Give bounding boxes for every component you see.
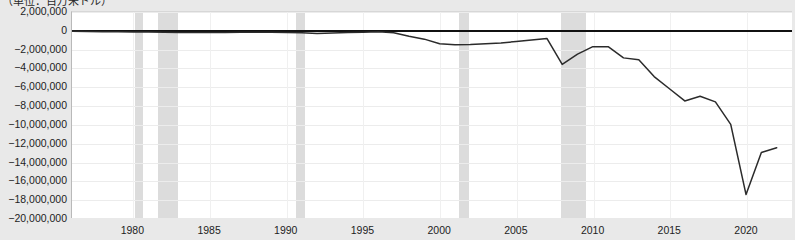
x-axis-tick-label: 2010 <box>581 224 604 236</box>
y-axis-tick-label: 0 <box>61 24 67 35</box>
x-axis-tick-label: 1985 <box>197 224 220 236</box>
x-axis-tick-label: 2020 <box>734 224 757 236</box>
y-axis-tick-label: −10,000,000 <box>8 118 67 129</box>
plot-area <box>71 11 792 218</box>
series-line-layer <box>72 12 792 218</box>
y-axis: 2,000,0000−2,000,000−4,000,000−6,000,000… <box>0 0 71 240</box>
x-axis-tick-label: 2005 <box>504 224 527 236</box>
series-line <box>72 31 777 194</box>
chart-figure: （単位：百万米ドル） 2,000,0000−2,000,000−4,000,00… <box>0 0 795 240</box>
x-axis-tick-label: 1980 <box>121 224 144 236</box>
y-axis-tick-label: −16,000,000 <box>8 175 67 186</box>
x-axis-tick-label: 1995 <box>351 224 374 236</box>
y-axis-tick-label: −4,000,000 <box>14 62 67 73</box>
x-axis-tick-label: 2000 <box>427 224 450 236</box>
y-axis-tick-label: −18,000,000 <box>8 194 67 205</box>
y-axis-tick-label: −8,000,000 <box>14 100 67 111</box>
y-axis-tick-label: 2,000,000 <box>20 6 67 17</box>
x-axis-tick-label: 1990 <box>274 224 297 236</box>
y-axis-tick-label: −12,000,000 <box>8 137 67 148</box>
y-axis-tick-label: −2,000,000 <box>14 43 67 54</box>
y-axis-tick-label: −14,000,000 <box>8 156 67 167</box>
x-axis-tick-label: 2015 <box>658 224 681 236</box>
x-axis: 198019851990199520002005201020152020 <box>0 219 795 240</box>
y-axis-tick-label: −6,000,000 <box>14 81 67 92</box>
